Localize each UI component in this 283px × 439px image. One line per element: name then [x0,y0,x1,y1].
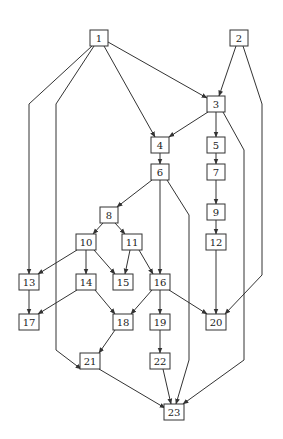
node-22: 22 [150,353,170,369]
node-7: 7 [207,164,225,180]
edge-14-to-18 [95,290,115,314]
edge-1-to-4 [104,46,155,137]
edge-18-to-21 [99,330,115,353]
node-label: 10 [80,237,93,248]
node-8: 8 [100,207,118,223]
node-2: 2 [230,30,248,46]
dag-diagram: 1234567891011121314151617181920212223 [0,0,283,439]
edge-3-to-23 [183,112,244,404]
node-label: 6 [157,167,163,178]
edge-6-to-8 [117,180,152,207]
node-label: 9 [213,207,219,218]
node-label: 14 [80,277,93,288]
node-23: 23 [164,404,184,420]
node-label: 13 [23,277,36,288]
edge-16-to-20 [169,290,207,314]
edge-21-to-23 [99,369,165,408]
edge-8-to-11 [115,223,125,234]
edge-6-to-23 [167,180,189,404]
node-layer: 1234567891011121314151617181920212223 [19,30,248,420]
node-label: 22 [154,356,167,367]
node-21: 21 [80,353,100,369]
node-19: 19 [150,314,170,330]
node-1: 1 [90,30,108,46]
node-label: 3 [213,99,219,110]
node-5: 5 [207,137,225,153]
node-17: 17 [19,314,39,330]
edge-11-to-15 [125,250,130,274]
node-label: 16 [154,277,167,288]
node-4: 4 [151,137,169,153]
node-label: 11 [126,237,139,248]
node-10: 10 [76,234,96,250]
edge-layer [29,42,262,408]
node-label: 1 [96,33,102,44]
edge-3-to-4 [169,112,208,137]
node-6: 6 [151,164,169,180]
node-label: 15 [117,277,130,288]
node-18: 18 [113,314,133,330]
edge-10-to-13 [38,250,77,274]
edge-22-to-23 [163,369,171,404]
node-label: 4 [157,140,163,151]
node-label: 5 [213,140,219,151]
node-3: 3 [207,96,225,112]
node-9: 9 [207,204,225,220]
node-15: 15 [113,274,133,290]
node-20: 20 [206,314,226,330]
node-label: 12 [210,237,223,248]
node-14: 14 [76,274,96,290]
node-label: 8 [106,210,112,221]
edge-10-to-15 [94,250,115,274]
node-12: 12 [206,234,226,250]
edge-11-to-16 [139,250,153,274]
edge-8-to-10 [93,223,103,234]
node-16: 16 [150,274,170,290]
node-label: 18 [117,317,130,328]
edge-2-to-3 [219,46,236,96]
node-13: 13 [19,274,39,290]
node-label: 19 [154,317,167,328]
node-11: 11 [122,234,142,250]
node-label: 21 [84,356,97,367]
edge-1-to-21 [56,46,94,369]
node-label: 2 [236,33,242,44]
edge-14-to-17 [38,290,77,314]
node-label: 20 [210,317,223,328]
edge-16-to-18 [131,290,152,314]
node-label: 7 [213,167,219,178]
node-label: 17 [23,317,36,328]
edge-1-to-3 [108,42,207,98]
node-label: 23 [168,407,181,418]
